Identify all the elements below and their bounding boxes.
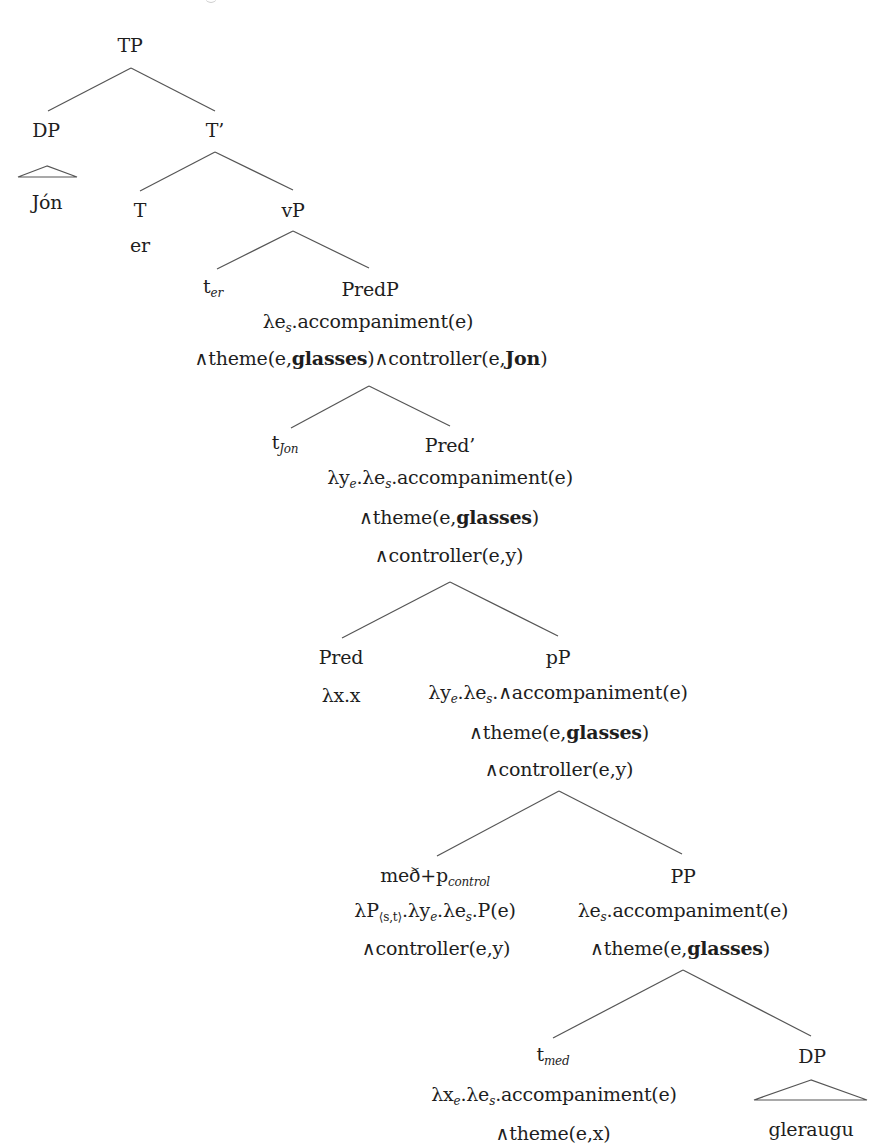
node-t-bar: T’ — [206, 121, 224, 140]
label-text: ∧controller(e,y) — [375, 544, 524, 566]
tree-branch — [342, 582, 450, 638]
tree-branches — [0, 0, 879, 1146]
bold-constant: glasses — [292, 347, 368, 369]
node-predp: PredP — [341, 280, 398, 299]
node-pp-little-sem-3: ∧controller(e,y) — [485, 760, 634, 779]
node-pred-bar: Pred’ — [425, 436, 475, 455]
label-text: ∧theme(e, — [469, 721, 566, 743]
node-trace-med-sem-1: λxe.λes.accompaniment(e) — [431, 1085, 677, 1107]
node-med-p-control-sem-2: ∧controller(e,y) — [362, 939, 511, 958]
subscript: ⟨s,t⟩ — [379, 910, 402, 924]
dp-subject-triangle — [18, 166, 77, 177]
node-pred-head: Pred — [319, 648, 363, 667]
tree-branch — [293, 231, 369, 268]
bold-constant: glasses — [687, 937, 763, 959]
label-text: ) — [532, 506, 539, 528]
label-text: .∧accompaniment(e) — [492, 681, 687, 703]
label-text: ) — [540, 347, 547, 369]
subscript: Jon — [279, 442, 298, 456]
label-text: λP — [354, 899, 378, 921]
label-text: .λe — [460, 1083, 489, 1105]
subscript: er — [210, 286, 222, 300]
label-text: ∧controller(e,y) — [362, 937, 511, 959]
label-text: λx.x — [322, 684, 361, 706]
label-text: λe — [578, 899, 601, 921]
node-pred-bar-sem-3: ∧controller(e,y) — [375, 546, 524, 565]
tree-branch — [291, 386, 369, 428]
tree-branch — [215, 152, 293, 190]
node-pp-little-sem-2: ∧theme(e,glasses) — [469, 723, 649, 742]
tree-branch — [140, 152, 215, 191]
node-pp-sem-1: λes.accompaniment(e) — [578, 901, 789, 923]
label-text: DP — [798, 1045, 826, 1067]
label-text: PP — [670, 865, 695, 887]
tree-branch — [683, 970, 811, 1036]
label-text: .accompaniment(e) — [495, 1083, 677, 1105]
label-text: er — [130, 234, 150, 256]
label-text: ∧theme(e,x) — [496, 1122, 611, 1144]
node-t-head: T — [134, 201, 146, 220]
label-text: með+p — [380, 864, 448, 886]
label-text: ∧theme(e, — [195, 347, 292, 369]
subscript: e — [430, 910, 437, 924]
label-text: DP — [32, 119, 60, 141]
tree-branch — [217, 231, 293, 269]
tree-branch — [437, 791, 559, 856]
label-text: λy — [428, 681, 450, 703]
bold-constant: Jon — [505, 347, 540, 369]
node-dp-object: DP — [798, 1047, 826, 1066]
tree-branch — [131, 68, 215, 111]
label-text: .λe — [437, 899, 466, 921]
label-text: λe — [263, 310, 286, 332]
label-text: )∧controller(e, — [367, 347, 505, 369]
tree-branch — [48, 68, 131, 111]
label-text: ∧controller(e,y) — [485, 758, 634, 780]
node-pp-sem-2: ∧theme(e,glasses) — [590, 939, 770, 958]
label-text: .λe — [458, 681, 487, 703]
node-er: er — [130, 236, 150, 255]
node-trace-med-sem-2: ∧theme(e,x) — [496, 1124, 611, 1143]
label-text: TP — [117, 34, 142, 56]
node-pred-bar-sem-2: ∧theme(e,glasses) — [359, 508, 539, 527]
node-dp-subject: DP — [32, 121, 60, 140]
node-pp: PP — [670, 867, 695, 886]
node-tp: TP — [117, 36, 142, 55]
node-trace-er: ter — [203, 277, 223, 299]
label-text: PredP — [341, 278, 398, 300]
node-pp-little-sem-1: λye.λes.∧accompaniment(e) — [428, 683, 687, 705]
node-med-p-control: með+pcontrol — [380, 866, 490, 888]
label-text: T — [134, 199, 146, 221]
label-text: ) — [642, 721, 649, 743]
node-jon: Jón — [32, 193, 63, 212]
label-text: ) — [763, 937, 770, 959]
tree-branch — [450, 582, 558, 636]
label-text: ∧theme(e, — [359, 506, 456, 528]
label-text: .accompaniment(e) — [292, 310, 474, 332]
bold-constant: glasses — [566, 721, 642, 743]
label-text: vP — [281, 199, 304, 221]
label-text: ∧theme(e, — [590, 937, 687, 959]
label-text: pP — [546, 646, 571, 668]
label-text: .λy — [402, 899, 430, 921]
label-text: gleraugu — [769, 1118, 854, 1140]
node-pp-little: pP — [546, 648, 571, 667]
node-vp: vP — [281, 201, 304, 220]
label-text: Jón — [32, 191, 63, 213]
node-trace-jon: tJon — [272, 433, 299, 455]
bold-constant: glasses — [456, 506, 532, 528]
tree-branch — [559, 791, 682, 854]
label-text: λx — [431, 1083, 453, 1105]
node-predp-sem-1: λes.accompaniment(e) — [263, 312, 474, 334]
node-pred-bar-sem-1: λye.λes.accompaniment(e) — [327, 468, 573, 490]
label-text: .accompaniment(e) — [607, 899, 789, 921]
label-text: T’ — [206, 119, 224, 141]
node-gleraugu: gleraugu — [769, 1120, 854, 1139]
subscript: control — [448, 875, 490, 889]
tree-branch — [369, 386, 450, 426]
node-trace-med: tmed — [537, 1045, 570, 1067]
subscript: med — [544, 1054, 570, 1068]
label-text: Pred’ — [425, 434, 475, 456]
dp-object-triangle — [754, 1080, 867, 1100]
tree-branch — [553, 970, 683, 1038]
label-text: λy — [327, 466, 349, 488]
